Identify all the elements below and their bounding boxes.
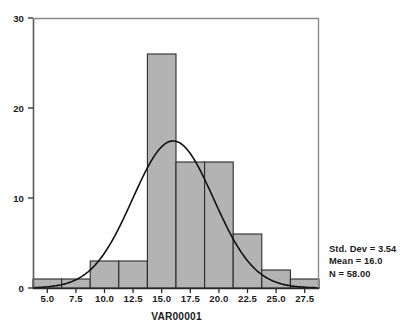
y-tick-label: 30 (0, 13, 24, 24)
x-tick-label: 25.0 (267, 293, 286, 304)
x-tick-label: 17.5 (181, 293, 200, 304)
histogram-bar (119, 261, 148, 288)
histogram-bar (147, 54, 176, 288)
x-tick-label: 27.5 (295, 293, 314, 304)
x-tick-label: 12.5 (124, 293, 143, 304)
histogram-bar (176, 162, 205, 288)
x-tick-label: 5.0 (40, 293, 54, 304)
y-tick-label: 10 (0, 193, 24, 204)
x-tick-label: 20.0 (209, 293, 228, 304)
legend-std-dev: Std. Dev = 3.54 (329, 243, 396, 255)
x-tick-label: 22.5 (238, 293, 257, 304)
legend-n: N = 58.00 (329, 268, 396, 280)
chart-canvas (0, 0, 410, 334)
y-axis-ticks (28, 18, 33, 288)
statistics-legend: Std. Dev = 3.54 Mean = 16.0 N = 58.00 (329, 243, 396, 280)
histogram-chart: 5.07.510.012.515.017.520.022.525.027.5 0… (0, 0, 410, 334)
y-tick-label: 20 (0, 103, 24, 114)
x-axis-title: VAR00001 (33, 311, 320, 322)
x-tick-label: 7.5 (69, 293, 83, 304)
y-tick-label: 0 (0, 283, 24, 294)
x-tick-label: 15.0 (152, 293, 171, 304)
histogram-bar (205, 162, 234, 288)
legend-mean: Mean = 16.0 (329, 255, 396, 267)
plot-area (28, 18, 319, 293)
x-tick-label: 10.0 (95, 293, 114, 304)
